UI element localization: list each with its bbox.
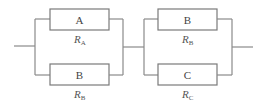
circuit-diagram: A B B C RA RB RB RC [0, 0, 264, 105]
resistance-label-ra: RA [73, 33, 86, 47]
resistance-label-rc: RC [181, 88, 194, 102]
label-b1: B [76, 69, 83, 81]
resistance-label-rb1: RB [73, 88, 86, 102]
label-c: C [184, 69, 191, 81]
label-a: A [76, 14, 84, 26]
label-b2: B [184, 14, 191, 26]
resistance-label-rb2: RB [181, 33, 194, 47]
